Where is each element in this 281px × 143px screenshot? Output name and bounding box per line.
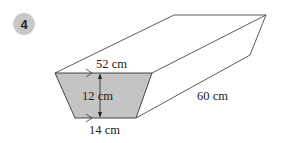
edge-top-right	[152, 15, 266, 73]
bottom-width-label: 14 cm	[89, 123, 120, 137]
length-label: 60 cm	[197, 89, 228, 103]
edge-back-right	[250, 15, 266, 55]
top-width-label: 52 cm	[96, 57, 127, 71]
edge-bottom-right	[136, 55, 250, 118]
trapezoidal-prism-diagram: 52 cm 12 cm 14 cm 60 cm	[0, 0, 281, 143]
height-label: 12 cm	[82, 89, 113, 103]
